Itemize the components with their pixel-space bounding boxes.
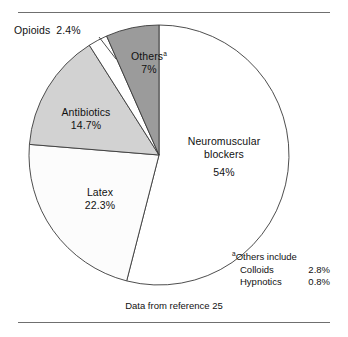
- slice-label-others: Othersa 7%: [123, 50, 175, 76]
- others-label-footnote-marker: a: [163, 50, 167, 57]
- antibiotics-label-name: Antibiotics: [62, 106, 111, 118]
- figure-container: Neuromuscular blockers 54% Latex 22.3% A…: [0, 0, 348, 337]
- others-label-pct: 7%: [123, 63, 175, 76]
- opioids-label-name: Opioids: [14, 24, 50, 36]
- footnote-colloids-label: Colloids: [240, 264, 274, 277]
- footnote-heading: aOthers include: [232, 251, 330, 264]
- footnote-row-hypnotics: Hypnotics 0.8%: [232, 276, 330, 289]
- latex-label-name: Latex: [87, 186, 113, 198]
- footnote-hypnotics-value: 0.8%: [308, 276, 330, 289]
- footnote-heading-text: Others include: [236, 251, 297, 262]
- opioids-label-pct: 2.4%: [56, 24, 80, 36]
- nmb-label-pct: 54%: [176, 166, 272, 179]
- slice-label-opioids: Opioids 2.4%: [14, 24, 81, 37]
- nmb-label-line1: Neuromuscular: [188, 135, 261, 147]
- footnote-row-colloids: Colloids 2.8%: [232, 264, 330, 277]
- antibiotics-label-pct: 14.7%: [48, 119, 124, 132]
- footnote-hypnotics-label: Hypnotics: [240, 276, 282, 289]
- slice-label-latex: Latex 22.3%: [69, 186, 131, 212]
- figure-caption: Data from reference 25: [0, 300, 348, 311]
- latex-label-pct: 22.3%: [69, 199, 131, 212]
- nmb-label-line2: blockers: [204, 148, 244, 160]
- slice-label-antibiotics: Antibiotics 14.7%: [48, 106, 124, 132]
- slice-label-neuromuscular-blockers: Neuromuscular blockers 54%: [176, 135, 272, 179]
- others-footnote: aOthers include Colloids 2.8% Hypnotics …: [232, 251, 330, 289]
- footnote-colloids-value: 2.8%: [308, 264, 330, 277]
- others-label-name: Others: [131, 50, 163, 62]
